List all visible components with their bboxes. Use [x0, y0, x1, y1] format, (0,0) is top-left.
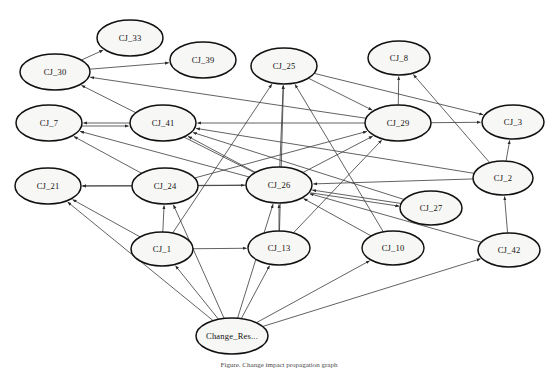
graph-edge: [506, 140, 510, 161]
graph-edge: [313, 179, 473, 184]
graph-edge: [173, 84, 272, 233]
node-label: CJ_33: [119, 33, 142, 43]
node-label: CJ_2: [494, 173, 512, 183]
node-label: CJ_3: [504, 117, 522, 127]
node-label: CJ_42: [498, 245, 521, 255]
graph-figure: CJ_33CJ_39CJ_25CJ_8CJ_30CJ_7CJ_41CJ_29CJ…: [0, 0, 558, 371]
graph-edge: [303, 136, 373, 172]
graph-node-cj_3[interactable]: CJ_3: [482, 105, 544, 139]
graph-node-change_res[interactable]: Change_Res...: [196, 318, 268, 354]
graph-node-cj_27[interactable]: CJ_27: [400, 191, 462, 225]
graph-node-cj_26[interactable]: CJ_26: [246, 167, 312, 203]
graph-canvas: CJ_33CJ_39CJ_25CJ_8CJ_30CJ_7CJ_41CJ_29CJ…: [0, 0, 558, 371]
graph-node-cj_1[interactable]: CJ_1: [131, 232, 193, 266]
graph-node-cj_42[interactable]: CJ_42: [478, 233, 540, 267]
graph-node-cj_39[interactable]: CJ_39: [170, 42, 236, 78]
graph-node-cj_33[interactable]: CJ_33: [97, 20, 163, 56]
node-label: CJ_1: [153, 244, 171, 254]
graph-edge: [263, 259, 481, 327]
graph-edge: [304, 199, 371, 236]
graph-node-cj_41[interactable]: CJ_41: [130, 105, 196, 141]
node-label: CJ_30: [44, 67, 67, 77]
graph-edge: [308, 78, 372, 110]
node-label: CJ_25: [273, 61, 296, 71]
graph-edge: [295, 84, 383, 231]
node-layer: CJ_33CJ_39CJ_25CJ_8CJ_30CJ_7CJ_41CJ_29CJ…: [15, 20, 544, 354]
node-label: CJ_21: [37, 181, 60, 191]
node-label: CJ_41: [152, 118, 175, 128]
graph-node-cj_21[interactable]: CJ_21: [15, 168, 81, 204]
graph-node-cj_24[interactable]: CJ_24: [132, 168, 198, 204]
graph-edge: [163, 205, 164, 232]
graph-node-cj_10[interactable]: CJ_10: [362, 231, 424, 265]
graph-node-cj_25[interactable]: CJ_25: [251, 48, 317, 84]
graph-node-cj_8[interactable]: CJ_8: [368, 41, 430, 75]
node-label: Change_Res...: [206, 331, 258, 341]
graph-edge: [312, 190, 401, 203]
node-label: CJ_8: [390, 53, 408, 63]
graph-edge: [73, 200, 140, 237]
graph-node-cj_13[interactable]: CJ_13: [248, 231, 310, 265]
node-label: CJ_7: [40, 118, 58, 128]
graph-edge: [90, 77, 366, 118]
graph-node-cj_2[interactable]: CJ_2: [473, 161, 533, 195]
graph-edge: [74, 137, 142, 174]
node-label: CJ_26: [268, 180, 291, 190]
node-label: CJ_24: [154, 181, 177, 191]
graph-edge: [256, 261, 369, 323]
graph-edge: [505, 196, 508, 233]
graph-node-cj_29[interactable]: CJ_29: [365, 105, 431, 141]
figure-caption: Figure. Change impact propagation graph: [0, 361, 558, 369]
node-label: CJ_29: [387, 118, 410, 128]
graph-edge: [176, 266, 219, 319]
node-label: CJ_39: [192, 55, 215, 65]
node-label: CJ_13: [268, 243, 291, 253]
graph-node-cj_30[interactable]: CJ_30: [20, 54, 90, 90]
graph-edge: [310, 193, 399, 206]
graph-edge: [90, 63, 169, 69]
node-label: CJ_27: [420, 203, 443, 213]
graph-node-cj_7[interactable]: CJ_7: [16, 105, 82, 141]
graph-edge: [81, 50, 103, 60]
node-label: CJ_10: [382, 243, 405, 253]
